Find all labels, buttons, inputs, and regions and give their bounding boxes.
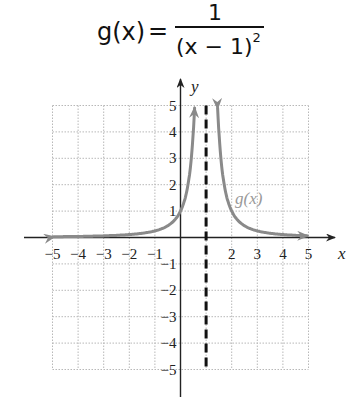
- y-tick-label: −2: [161, 282, 177, 298]
- y-tick-label: −3: [161, 309, 177, 325]
- y-tick-label: −4: [161, 335, 177, 351]
- y-tick-label: 5: [169, 98, 177, 114]
- x-tick-label: −3: [96, 246, 112, 262]
- x-tick-label: −5: [45, 246, 61, 262]
- curve-label: g(x): [235, 189, 263, 208]
- y-tick-label: 1: [169, 203, 177, 219]
- x-tick-label: 4: [279, 246, 287, 262]
- x-axis-label: x: [337, 244, 346, 263]
- x-tick-label: 2: [228, 246, 236, 262]
- x-tick-label: −2: [121, 246, 137, 262]
- y-axis-label: y: [189, 77, 199, 96]
- y-tick-label: 3: [169, 150, 177, 166]
- x-tick-label: 5: [305, 246, 313, 262]
- chart: −5−4−3−2−1234554321−1−2−3−4−5 x y g(x): [0, 0, 356, 409]
- y-tick-label: −5: [161, 362, 177, 378]
- x-tick-label: 3: [254, 246, 262, 262]
- y-tick-label: 2: [169, 177, 177, 193]
- y-tick-label: 4: [169, 124, 177, 140]
- y-tick-label: −1: [161, 256, 177, 272]
- x-tick-label: −4: [70, 246, 86, 262]
